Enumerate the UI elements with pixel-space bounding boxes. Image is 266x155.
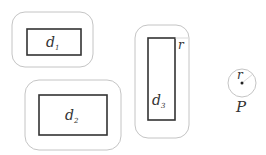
point-p-group: r P — [228, 68, 256, 116]
diagram-canvas: d1 d2 d3 r r P — [0, 0, 266, 155]
region-d3: d3 r — [135, 25, 189, 138]
radius-label-r: r — [237, 68, 244, 82]
region-d1: d1 — [12, 12, 93, 67]
label-d1: d1 — [46, 34, 59, 52]
offset-label-r: r — [178, 38, 185, 52]
region-d2: d2 — [25, 80, 121, 150]
label-d3: d3 — [152, 92, 166, 110]
label-d2: d2 — [65, 107, 79, 125]
radius-line — [242, 74, 253, 83]
point-label-p: P — [235, 98, 247, 116]
